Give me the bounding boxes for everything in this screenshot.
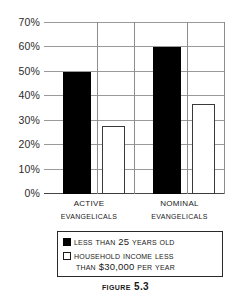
category-separator — [187, 22, 188, 194]
legend-item-label: Household income less than $30,000 per y… — [74, 250, 175, 272]
x-axis-category-label: Active evangelicals — [44, 196, 134, 222]
x-axis-category-line2: evangelicals — [44, 209, 134, 222]
chart-legend: Less than 25 years old Household income … — [57, 231, 223, 277]
y-axis-tick: 30% — [18, 114, 40, 126]
y-axis-tick: 40% — [18, 89, 40, 101]
y-axis-tick: 20% — [18, 138, 40, 150]
y-axis-tick: 60% — [18, 40, 40, 52]
figure-caption: Figure 5.3 — [0, 281, 251, 292]
legend-item-line1: Less than 25 years old — [74, 236, 175, 247]
y-axis-tick: 0% — [24, 187, 40, 199]
bar-chart-figure: 70% 60% 50% 40% 30% 20% 10% 0% Activ — [0, 0, 251, 301]
x-axis-category-label: Nominal evangelicals — [134, 196, 225, 222]
y-axis-tick: 10% — [18, 163, 40, 175]
legend-item-line2: than $30,000 per year — [74, 261, 175, 272]
bar-nominal-income-under-30k — [192, 104, 215, 194]
x-axis-category-line2: evangelicals — [134, 209, 225, 222]
category-separator — [97, 22, 98, 194]
x-axis-category-line1: Nominal — [134, 196, 225, 209]
bar-nominal-less-than-25 — [153, 47, 181, 194]
legend-item: Less than 25 years old — [63, 236, 217, 247]
legend-item: Household income less than $30,000 per y… — [63, 250, 217, 272]
plot-area — [44, 22, 225, 194]
legend-swatch-filled-icon — [63, 238, 71, 246]
legend-item-line1: Household income less — [74, 250, 174, 261]
y-axis: 70% 60% 50% 40% 30% 20% 10% 0% — [0, 22, 40, 194]
y-axis-tick: 50% — [18, 65, 40, 77]
x-axis-category-line1: Active — [44, 196, 134, 209]
bar-active-less-than-25 — [63, 72, 91, 194]
x-axis: Active evangelicals Nominal evangelicals — [44, 196, 225, 226]
legend-item-label: Less than 25 years old — [74, 236, 175, 247]
bar-active-income-under-30k — [102, 126, 125, 194]
category-separator — [134, 22, 135, 194]
category-separator — [224, 22, 225, 194]
legend-swatch-outlined-icon — [63, 252, 71, 260]
y-axis-tick: 70% — [18, 16, 40, 28]
